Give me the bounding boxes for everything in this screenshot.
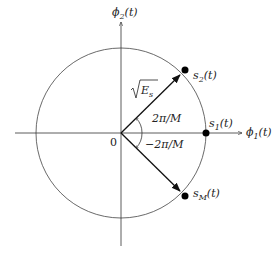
label-sM: sM(t) xyxy=(193,187,220,202)
point-sM xyxy=(182,193,189,200)
angle-label-negative: −2π/M xyxy=(145,138,184,151)
label-s1: s1(t) xyxy=(209,117,233,132)
phi2-axis-label: ϕ2(t) xyxy=(112,6,138,21)
point-s2 xyxy=(182,67,189,74)
point-s1 xyxy=(203,130,210,137)
phi1-axis-label: ϕ1(t) xyxy=(246,126,272,141)
angle-label-positive: 2π/M xyxy=(151,112,182,125)
svg-text:Es: Es xyxy=(140,84,153,99)
angle-arc-positive-icon xyxy=(136,118,142,133)
psk-constellation-diagram: ϕ2(t) ϕ1(t) 0 Es 2π/M −2π/M s2(t) s1(t) … xyxy=(0,0,274,255)
radius-label: Es xyxy=(131,80,158,99)
angle-arc-negative-icon xyxy=(136,133,142,148)
label-s2: s2(t) xyxy=(193,69,217,84)
origin-label: 0 xyxy=(110,136,117,149)
